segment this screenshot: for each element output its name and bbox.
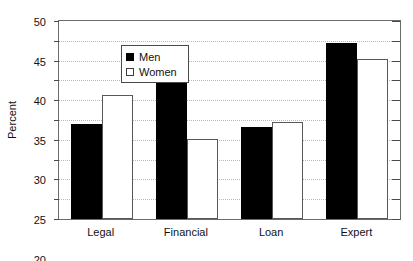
x-axis-tick-label: Financial bbox=[164, 226, 208, 238]
legend: Men Women bbox=[121, 45, 189, 83]
y-axis-tick: 35 bbox=[54, 80, 59, 81]
legend-swatch-women-icon bbox=[126, 68, 134, 76]
y-axis-tick: 10 bbox=[54, 179, 59, 180]
y-axis-tick: 5 bbox=[54, 199, 59, 200]
legend-item-men: Men bbox=[126, 49, 183, 64]
bar-expert-men bbox=[326, 43, 357, 219]
y-axis-tick-label: 20 bbox=[34, 254, 46, 261]
y-axis-tick-right bbox=[392, 179, 400, 180]
y-axis-tick-right bbox=[392, 61, 400, 62]
bar-loan-men bbox=[241, 127, 272, 219]
y-axis-tick-right bbox=[392, 21, 400, 22]
y-axis-tick-right bbox=[392, 199, 400, 200]
y-axis-tick-right bbox=[392, 160, 400, 161]
y-axis-tick: 40 bbox=[54, 61, 59, 62]
legend-label-women: Women bbox=[139, 66, 177, 78]
bar-financial-women bbox=[187, 139, 218, 219]
legend-label-men: Men bbox=[139, 51, 160, 63]
y-axis-tick-label: 40 bbox=[34, 95, 46, 107]
y-axis-tick-label: 45 bbox=[34, 56, 46, 68]
y-axis-tick-label: 30 bbox=[34, 174, 46, 186]
y-axis-tick-right bbox=[392, 219, 400, 220]
y-axis-tick-right bbox=[392, 120, 400, 121]
y-axis-tick: 50 bbox=[54, 21, 59, 22]
y-axis-tick: 20 bbox=[54, 140, 59, 141]
y-axis-tick-label: 35 bbox=[34, 135, 46, 147]
y-axis-tick: 45 bbox=[54, 41, 59, 42]
y-axis-tick-right bbox=[392, 41, 400, 42]
x-axis-tick-label: Loan bbox=[259, 226, 283, 238]
legend-item-women: Women bbox=[126, 64, 183, 79]
y-axis-title: Percent bbox=[4, 18, 20, 222]
y-axis-title-text: Percent bbox=[4, 18, 20, 222]
x-axis-tick-label: Expert bbox=[340, 226, 372, 238]
y-axis-tick-right bbox=[392, 80, 400, 81]
plot-area: 05101520253035404550 Men Women bbox=[58, 20, 401, 220]
bar-legal-women bbox=[102, 95, 133, 219]
y-axis-tick: 25 bbox=[54, 120, 59, 121]
x-axis-tick-label: Legal bbox=[87, 226, 114, 238]
gridline bbox=[59, 41, 400, 42]
y-axis-tick-label: 50 bbox=[34, 16, 46, 28]
bar-financial-men bbox=[156, 83, 187, 219]
bar-loan-women bbox=[272, 122, 303, 219]
legend-swatch-men-icon bbox=[126, 53, 134, 61]
y-axis-tick-label: 25 bbox=[34, 214, 46, 226]
y-axis-tick-right bbox=[392, 140, 400, 141]
y-axis-tick: 30 bbox=[54, 100, 59, 101]
bar-expert-women bbox=[357, 59, 388, 219]
y-axis-tick-right bbox=[392, 100, 400, 101]
bar-chart-figure: Percent 05101520253035404550 Men Women L… bbox=[0, 0, 413, 261]
bar-legal-men bbox=[71, 124, 102, 219]
y-axis-tick: 0 bbox=[54, 219, 59, 220]
y-axis-tick: 15 bbox=[54, 160, 59, 161]
